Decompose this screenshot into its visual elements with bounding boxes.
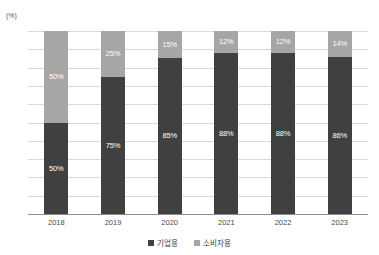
bar-data-label: 85%	[162, 132, 176, 140]
bar-group[interactable]: 75%25%	[101, 31, 125, 214]
gridline	[28, 31, 368, 32]
bar-segment-consumer[interactable]: 25%	[101, 31, 125, 77]
bar-data-label: 12%	[219, 38, 233, 46]
bar-data-label: 75%	[106, 142, 120, 150]
x-axis-tick-label: 2019	[93, 218, 133, 227]
gridline	[28, 68, 368, 69]
gridline	[28, 141, 368, 142]
x-axis-line	[28, 214, 368, 215]
bar-group[interactable]: 86%14%	[328, 31, 352, 214]
legend-swatch-consumer	[194, 240, 200, 246]
gridline	[28, 86, 368, 87]
legend-item-consumer[interactable]: 소비자용	[194, 237, 231, 248]
y-axis-unit-label: (%)	[6, 12, 17, 19]
bar-segment-business[interactable]: 50%	[44, 123, 68, 215]
plot-area: 010203040506070809010050%50%75%25%85%15%…	[28, 31, 368, 214]
x-axis-tick-label: 2023	[320, 218, 360, 227]
bar-data-label: 15%	[162, 41, 176, 49]
gridline	[28, 196, 368, 197]
chart-legend: 기업용 소비자용	[0, 237, 379, 248]
x-axis-tick-label: 2022	[263, 218, 303, 227]
bar-segment-consumer[interactable]: 12%	[271, 31, 295, 53]
legend-label-consumer: 소비자용	[203, 237, 231, 248]
legend-label-business: 기업용	[157, 237, 178, 248]
bar-data-label: 50%	[49, 165, 63, 173]
bar-group[interactable]: 88%12%	[214, 31, 238, 214]
bar-data-label: 86%	[332, 132, 346, 140]
bar-group[interactable]: 50%50%	[44, 31, 68, 214]
gridline	[28, 104, 368, 105]
legend-item-business[interactable]: 기업용	[148, 237, 178, 248]
gridline	[28, 123, 368, 124]
bar-group[interactable]: 85%15%	[158, 31, 182, 214]
bar-data-label: 88%	[276, 130, 290, 138]
gridline	[28, 177, 368, 178]
bar-segment-business[interactable]: 88%	[271, 53, 295, 214]
bar-segment-consumer[interactable]: 14%	[328, 31, 352, 57]
bar-segment-consumer[interactable]: 15%	[158, 31, 182, 58]
legend-swatch-business	[148, 240, 154, 246]
bar-segment-business[interactable]: 86%	[328, 57, 352, 214]
bar-data-label: 25%	[106, 50, 120, 58]
x-axis-tick-label: 2021	[206, 218, 246, 227]
bar-data-label: 14%	[332, 40, 346, 48]
bar-segment-consumer[interactable]: 50%	[44, 31, 68, 123]
bar-segment-business[interactable]: 75%	[101, 77, 125, 214]
bar-data-label: 50%	[49, 73, 63, 81]
bar-data-label: 12%	[276, 38, 290, 46]
bar-group[interactable]: 88%12%	[271, 31, 295, 214]
x-axis-tick-label: 2018	[36, 218, 76, 227]
stacked-bar-chart: (%) 010203040506070809010050%50%75%25%85…	[0, 0, 379, 255]
x-axis-tick-label: 2020	[150, 218, 190, 227]
bar-segment-business[interactable]: 88%	[214, 53, 238, 214]
bar-segment-business[interactable]: 85%	[158, 58, 182, 214]
bar-data-label: 88%	[219, 130, 233, 138]
bar-segment-consumer[interactable]: 12%	[214, 31, 238, 53]
gridline	[28, 159, 368, 160]
gridline	[28, 49, 368, 50]
